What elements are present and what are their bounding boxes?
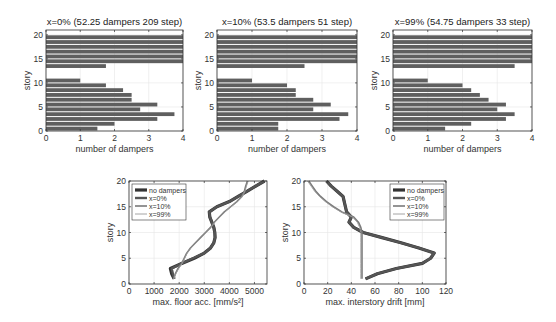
bar [217,55,357,59]
y-tick-label: 15 [117,202,127,212]
x-tick-label: 40 [347,286,357,296]
bar [46,127,97,131]
y-tick-label: 20 [205,30,215,40]
x-tick-label: 3 [320,133,325,143]
x-tick-label: 2 [112,133,117,143]
y-tick-label: 15 [381,54,391,64]
bar [217,40,357,44]
bar [393,35,532,39]
y-tick-label: 10 [292,228,302,238]
bar [46,122,115,126]
bar [46,40,183,44]
x-tick-label: 0 [302,286,307,296]
x-tick-label: 0 [391,133,396,143]
y-axis-label: story [369,70,379,90]
x-tick-label: 1 [78,133,83,143]
bar [393,117,506,121]
x-tick-label: 1 [425,133,430,143]
x-tick-label: 0 [215,133,220,143]
legend-label: x=10% [149,203,171,210]
y-tick-label: 20 [34,30,44,40]
bar [46,45,183,49]
x-axis-label: number of dampers [75,144,154,154]
legend-label: x=0% [407,195,425,202]
y-tick-label: 5 [296,253,301,263]
bar [393,88,471,92]
bar [217,88,296,92]
bar [217,103,331,107]
legend-label: no dampers [149,187,186,195]
x-axis-label: max. floor acc. [mm/s²] [152,297,243,307]
bar [46,88,123,92]
y-tick-label: 0 [38,126,43,136]
bar [46,35,183,39]
x-tick-label: 100 [415,286,429,296]
x-tick-label: 120 [439,286,453,296]
legend-label: x=0% [149,195,167,202]
x-tick-label: 3 [146,133,151,143]
legend: no dampersx=0%x=10%x=99% [390,184,444,220]
bar [393,55,532,59]
x-tick-label: 4000 [220,286,239,296]
y-tick-label: 5 [38,102,43,112]
bar [393,50,532,54]
x-tick-label: 4 [355,133,360,143]
x-tick-label: 3 [495,133,500,143]
chart-5: 02040608010012005101520max. interstory d… [280,176,453,307]
bar [217,122,278,126]
legend-label: x=99% [407,211,429,218]
bar [393,79,428,83]
chart-3: 0123405101520number of dampersstoryx=99%… [369,16,535,154]
x-tick-label: 2000 [170,286,189,296]
y-axis-label: story [22,70,32,90]
bar [46,107,140,111]
bar [46,93,132,97]
bar [393,59,532,63]
x-tick-label: 0 [127,286,132,296]
y-axis-label: story [105,222,115,242]
bar [217,98,313,102]
y-tick-label: 10 [205,78,215,88]
bar [393,40,532,44]
chart-title: x=99% (54.75 dampers 33 step) [395,16,530,27]
bar [393,98,489,102]
y-tick-label: 20 [292,176,302,186]
bar [393,127,445,131]
bar [393,64,515,68]
y-tick-label: 20 [381,30,391,40]
y-tick-label: 10 [381,78,391,88]
bar [217,50,357,54]
bar [217,112,348,116]
y-tick-label: 0 [296,279,301,289]
x-tick-label: 60 [370,286,380,296]
y-tick-label: 0 [385,126,390,136]
x-axis-label: max. interstory drift [mm] [325,297,424,307]
bar [46,83,106,87]
x-tick-label: 3000 [195,286,214,296]
x-tick-label: 2 [285,133,290,143]
bar [393,103,506,107]
bar [46,59,183,63]
series-line-x10 [309,181,362,279]
bar [393,83,463,87]
chart-1: 0123405101520number of dampersstoryx=0% … [22,16,186,154]
y-axis-label: story [280,222,290,242]
bar [393,122,471,126]
bar [217,107,313,111]
bar [217,127,278,131]
bar [46,112,174,116]
bar [217,117,340,121]
x-tick-label: 2 [460,133,465,143]
bar [46,64,106,68]
bar [217,64,305,68]
y-tick-label: 10 [117,228,127,238]
bar [217,83,287,87]
x-tick-label: 5000 [245,286,264,296]
x-axis-label: number of dampers [423,144,502,154]
bar [217,59,357,63]
y-tick-label: 15 [34,54,44,64]
y-tick-label: 10 [34,78,44,88]
y-tick-label: 15 [205,54,215,64]
bar [393,112,515,116]
chart-title: x=10% (53.5 dampers 51 step) [222,16,352,27]
